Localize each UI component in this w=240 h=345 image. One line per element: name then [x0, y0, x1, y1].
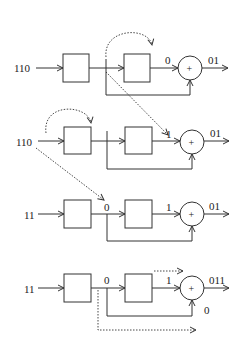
stage-1-output: 01 — [208, 54, 219, 66]
register-1 — [64, 127, 91, 154]
plus-icon: + — [189, 283, 195, 294]
stage-2-input: 110 — [16, 136, 33, 148]
stage-4-mid: 0 — [104, 274, 110, 286]
register-2 — [125, 200, 152, 228]
stage-1: 110 0 + 01 — [14, 33, 228, 135]
stage-4: 11 0 1 + 011 0 — [24, 271, 229, 330]
shift-register-diagram: 110 0 + 01 110 1 + 01 11 — [0, 0, 240, 345]
register-1 — [64, 200, 91, 228]
plus-icon: + — [189, 137, 195, 148]
register-2 — [124, 54, 150, 82]
plus-icon: + — [187, 63, 193, 74]
stage-1-reg-out: 0 — [165, 54, 171, 66]
stage-3-output: 01 — [209, 200, 220, 212]
stage-3-mid: 0 — [104, 201, 110, 213]
stage-4-output: 011 — [209, 274, 225, 286]
carry-arrow — [36, 148, 104, 200]
stage-4-feedback-label: 0 — [204, 304, 210, 316]
register-2 — [125, 274, 152, 302]
stage-3-reg-out: 1 — [166, 201, 172, 213]
shift-arrow — [106, 33, 152, 57]
stage-4-reg-out: 1 — [166, 274, 172, 286]
stage-2-reg-out: 1 — [166, 128, 172, 140]
stage-2-output: 01 — [210, 127, 221, 139]
stage-3: 11 0 1 + 01 — [24, 200, 229, 241]
register-1 — [63, 54, 89, 82]
stage-3-input: 11 — [24, 209, 35, 221]
stage-2: 110 1 + 01 — [16, 109, 229, 200]
stage-1-input: 110 — [14, 62, 31, 74]
register-2 — [125, 127, 152, 154]
plus-icon: + — [189, 209, 195, 220]
register-1 — [64, 274, 91, 302]
stage-4-input: 11 — [24, 283, 35, 295]
